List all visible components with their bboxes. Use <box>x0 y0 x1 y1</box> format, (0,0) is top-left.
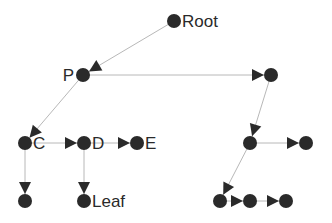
node-d <box>77 136 91 150</box>
node-p <box>76 68 90 82</box>
node-cl <box>18 194 32 208</box>
node-b3 <box>279 194 293 208</box>
node-c <box>18 136 32 150</box>
node-r2 <box>243 136 257 150</box>
arrowhead-icon <box>89 60 102 71</box>
node-label-c: C <box>33 134 45 153</box>
arrowhead-icon <box>19 182 31 194</box>
arrowhead-icon <box>118 137 130 149</box>
edge-p-to-c <box>30 75 83 138</box>
arrowhead-icon <box>252 69 264 81</box>
arrowhead-icon <box>231 195 243 207</box>
node-b2 <box>243 194 257 208</box>
arrowhead-icon <box>250 123 261 136</box>
arrowhead-icon <box>287 137 299 149</box>
arrowheads-layer <box>19 60 299 207</box>
node-r1 <box>264 68 278 82</box>
node-e <box>130 136 144 150</box>
node-b1 <box>213 194 227 208</box>
arrowhead-icon <box>65 137 77 149</box>
node-r3 <box>299 136 313 150</box>
node-root <box>167 14 181 28</box>
arrowhead-icon <box>78 182 90 194</box>
node-label-p: P <box>63 66 74 85</box>
tree-diagram: RootPCDELeaf <box>0 0 332 223</box>
labels-layer: RootPCDELeaf <box>33 12 218 211</box>
arrowhead-icon <box>267 195 279 207</box>
node-label-e: E <box>145 134 156 153</box>
node-label-leaf: Leaf <box>92 192 125 211</box>
nodes-layer <box>18 14 313 208</box>
edges-layer <box>25 21 299 201</box>
node-label-d: D <box>92 134 104 153</box>
node-leaf <box>77 194 91 208</box>
node-label-root: Root <box>182 12 218 31</box>
edge-root-to-p <box>89 21 174 71</box>
